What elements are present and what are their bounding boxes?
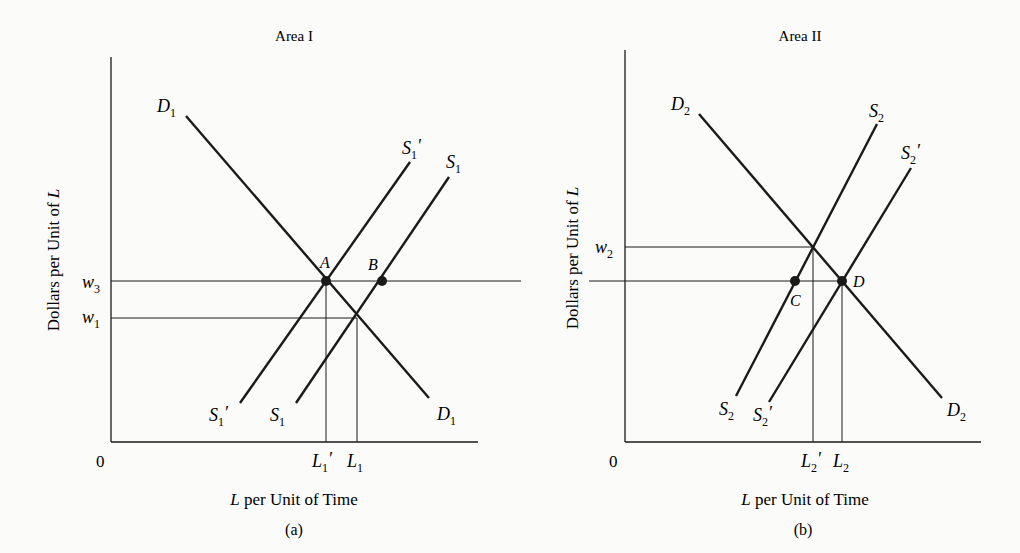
label-L2prime: L2′	[800, 449, 822, 475]
point-A-marker	[321, 276, 331, 286]
label-S1-bottom: S1	[270, 405, 285, 429]
panel-a-demand-curve-D1	[186, 116, 429, 398]
panel-a-y-axis-label: Dollars per Unit of L	[44, 189, 63, 332]
label-L1prime: L1′	[311, 449, 333, 475]
label-L2: L2	[832, 451, 849, 475]
label-w2: w2	[595, 237, 613, 261]
panel-a: Area I Dollars per Unit of L A B D1 D1 S…	[44, 28, 521, 539]
label-S1prime-top: S1′	[402, 136, 422, 162]
panel-b-caption: (b)	[794, 521, 813, 539]
label-w1: w1	[82, 307, 100, 331]
panel-b-origin-label: 0	[609, 452, 618, 471]
point-C-label: C	[790, 292, 801, 309]
label-D2-top: D2	[670, 94, 690, 118]
point-A-label: A	[319, 254, 330, 271]
panel-b-y-axis-label: Dollars per Unit of L	[563, 187, 582, 330]
label-w3: w3	[82, 272, 100, 296]
panel-b-title: Area II	[779, 28, 822, 44]
label-S1prime-bottom: S1′	[209, 403, 229, 429]
point-C-marker	[790, 276, 800, 286]
label-D1-bottom: D1	[436, 404, 456, 428]
label-S2-bottom: S2	[719, 399, 734, 423]
label-S1-top: S1	[446, 152, 461, 176]
panel-a-caption: (a)	[285, 521, 303, 539]
label-S2prime-bottom: S2′	[753, 403, 773, 429]
point-B-label: B	[368, 256, 378, 273]
panel-a-x-axis-label: L per Unit of Time	[229, 490, 358, 509]
label-L1: L1	[346, 451, 363, 475]
label-S2prime-top: S2′	[901, 141, 921, 167]
label-D2-bottom: D2	[946, 400, 966, 424]
panel-b: Area II Dollars per Unit of L C D D2 D2 …	[563, 28, 981, 539]
point-D-label: D	[852, 273, 865, 290]
point-D-marker	[837, 276, 847, 286]
label-S2-top: S2	[869, 101, 884, 125]
panel-b-x-axis-label: L per Unit of Time	[740, 490, 869, 509]
labor-market-diagram: Area I Dollars per Unit of L A B D1 D1 S…	[0, 0, 1020, 553]
point-B-marker	[377, 276, 387, 286]
panel-a-title: Area I	[275, 28, 313, 44]
panel-a-origin-label: 0	[96, 452, 105, 471]
label-D1-top: D1	[156, 96, 176, 120]
